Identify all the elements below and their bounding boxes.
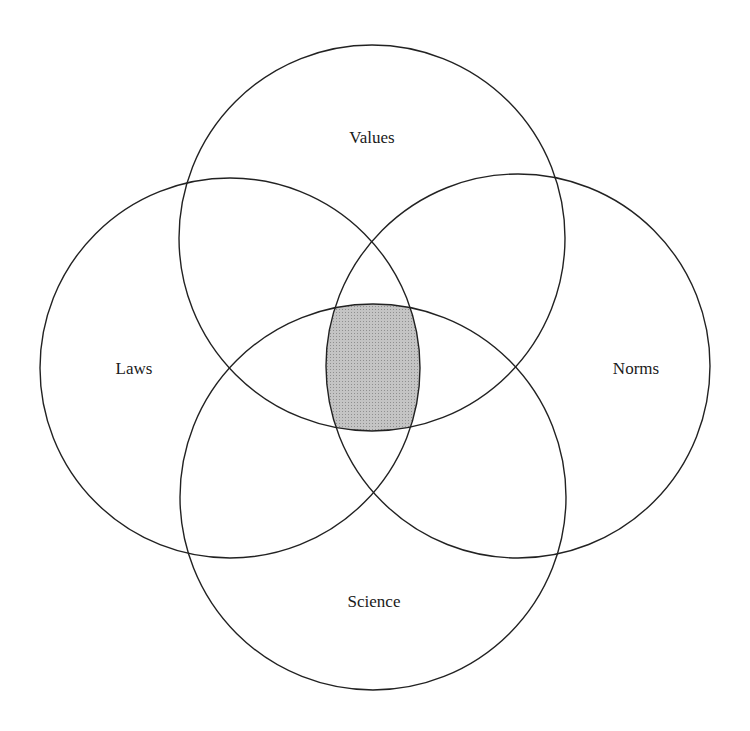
norms-label: Norms — [613, 359, 659, 379]
laws-label: Laws — [116, 359, 153, 379]
shaded-intersection-region — [180, 304, 566, 690]
science-label: Science — [348, 592, 401, 612]
values-label: Values — [349, 128, 394, 148]
